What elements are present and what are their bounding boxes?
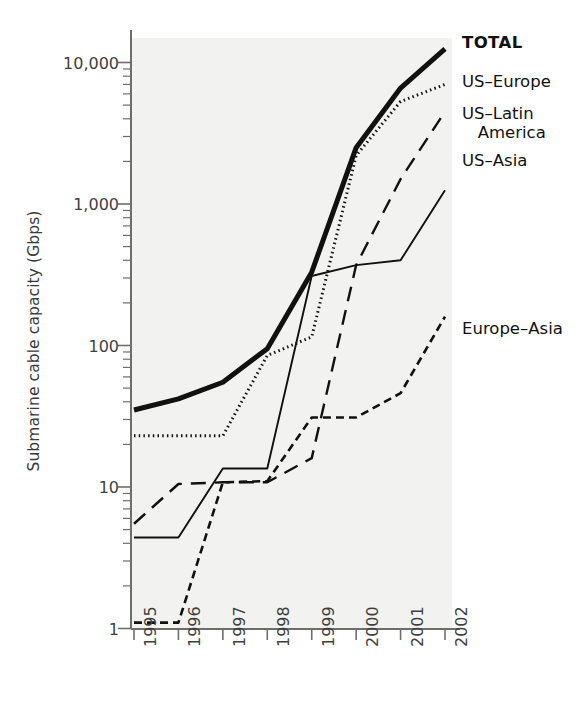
x-tick-label: 1997 (230, 606, 249, 647)
x-tick-label: 1996 (185, 606, 204, 647)
x-tick-label: 1995 (141, 606, 160, 647)
y-tick-label: 100 (19, 336, 119, 355)
x-tick-label: 2000 (363, 606, 382, 647)
y-axis-ticks (118, 63, 131, 629)
series-label: Europe–Asia (462, 319, 563, 338)
series-label: US–Latin America (462, 104, 546, 143)
plot-background (131, 38, 452, 629)
x-tick-label: 2002 (452, 606, 471, 647)
y-tick-label: 10 (19, 478, 119, 497)
y-tick-label: 1,000 (19, 195, 119, 214)
series-label: US–Europe (462, 72, 551, 91)
x-tick-label: 2001 (408, 606, 427, 647)
y-tick-label: 1 (19, 619, 119, 638)
x-tick-label: 1998 (274, 606, 293, 647)
series-label: TOTAL (462, 33, 523, 52)
y-tick-label: 10,000 (19, 53, 119, 72)
chart-figure: Submarine cable capacity (Gbps) 1101001,… (0, 0, 583, 720)
x-tick-label: 1999 (319, 606, 338, 647)
series-label: US–Asia (462, 151, 527, 170)
